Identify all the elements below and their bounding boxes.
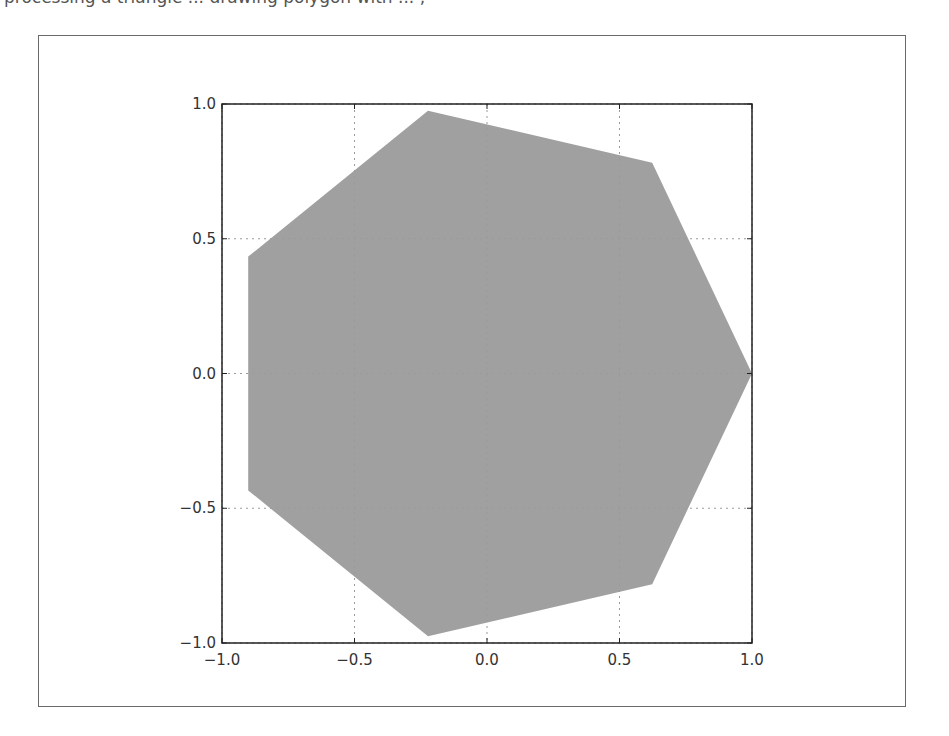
x-tick-label: 1.0 (740, 651, 764, 669)
x-tick-label: −1.0 (204, 651, 240, 669)
y-tick-labels: −1.0−0.50.00.51.0 (180, 95, 216, 652)
y-tick-label: 0.5 (192, 230, 216, 248)
y-tick-label: 1.0 (192, 95, 216, 113)
x-tick-labels: −1.0−0.50.00.51.0 (204, 651, 764, 669)
heptagon-shape (248, 111, 752, 636)
heptagon-polygon (248, 111, 752, 636)
chart-canvas: −1.0−0.50.00.51.0 −1.0−0.50.00.51.0 (0, 0, 949, 736)
x-tick-label: −0.5 (336, 651, 372, 669)
y-tick-label: −1.0 (180, 634, 216, 652)
x-tick-label: 0.0 (475, 651, 499, 669)
x-tick-label: 0.5 (608, 651, 632, 669)
y-tick-label: −0.5 (180, 499, 216, 517)
y-tick-label: 0.0 (192, 365, 216, 383)
